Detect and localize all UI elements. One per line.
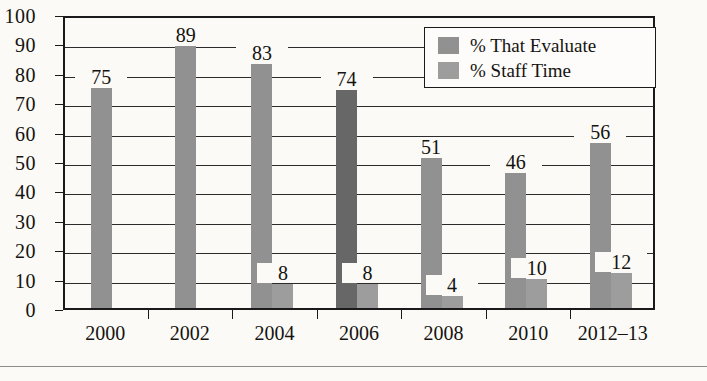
x-axis-tick-mark bbox=[148, 310, 149, 319]
y-axis-tick-mark bbox=[55, 45, 63, 46]
gridline bbox=[65, 165, 653, 166]
bar-value-label: 56 bbox=[574, 122, 626, 142]
x-axis-category-label: 2012–13 bbox=[570, 322, 655, 344]
bar-value-label: 74 bbox=[321, 69, 373, 89]
y-axis-tick-mark bbox=[55, 222, 63, 223]
y-axis-tick-label: 20 bbox=[15, 241, 36, 261]
y-axis-tick-mark bbox=[55, 192, 63, 193]
bar-value-label: 83 bbox=[236, 43, 288, 63]
bar bbox=[357, 284, 378, 308]
bar-value-label: 8 bbox=[257, 263, 309, 283]
y-axis-tick-label: 60 bbox=[15, 124, 36, 144]
y-axis-tick-mark bbox=[55, 16, 63, 17]
x-axis-category-label: 2008 bbox=[401, 322, 486, 344]
y-axis-tick-mark bbox=[55, 134, 63, 135]
x-axis-tick-mark bbox=[486, 310, 487, 319]
bar bbox=[272, 284, 293, 308]
x-axis-category-label: 2004 bbox=[232, 322, 317, 344]
footer-divider bbox=[0, 366, 707, 367]
legend-item: % That Evaluate bbox=[438, 33, 655, 58]
y-axis-tick-mark bbox=[55, 251, 63, 252]
y-axis-tick-mark bbox=[55, 163, 63, 164]
y-axis-tick-label: 90 bbox=[15, 35, 36, 55]
bar-value-label: 10 bbox=[511, 258, 563, 278]
y-axis-tick-label: 70 bbox=[15, 94, 36, 114]
y-axis-tick-label: 80 bbox=[15, 65, 36, 85]
chart-figure: 0102030405060708090100 75898387485144610… bbox=[0, 0, 707, 381]
legend-swatch bbox=[438, 37, 459, 54]
bar-value-label: 89 bbox=[160, 25, 212, 45]
bar-value-label: 12 bbox=[595, 252, 647, 272]
bar-value-label: 4 bbox=[426, 275, 478, 295]
x-axis-tick-mark bbox=[232, 310, 233, 319]
bar bbox=[526, 279, 547, 308]
y-axis-tick-label: 10 bbox=[15, 271, 36, 291]
gridline bbox=[65, 136, 653, 137]
legend-item: % Staff Time bbox=[438, 58, 655, 83]
bar bbox=[91, 88, 112, 309]
y-axis-tick-label: 40 bbox=[15, 182, 36, 202]
gridline bbox=[65, 106, 653, 107]
x-axis-category-label: 2000 bbox=[63, 322, 148, 344]
bar-value-label: 75 bbox=[75, 67, 127, 87]
bar bbox=[590, 143, 611, 308]
y-axis-tick-label: 30 bbox=[15, 212, 36, 232]
y-axis-tick-mark bbox=[55, 75, 63, 76]
bar bbox=[442, 296, 463, 308]
y-axis-tick-label: 0 bbox=[26, 300, 37, 320]
y-axis-tick-mark bbox=[55, 281, 63, 282]
x-axis-category-label: 2006 bbox=[317, 322, 402, 344]
bar-value-label: 8 bbox=[342, 263, 394, 283]
legend-swatch bbox=[438, 62, 459, 79]
y-axis-tick-label: 50 bbox=[15, 153, 36, 173]
bar-value-label: 46 bbox=[490, 152, 542, 172]
y-axis-tick-mark bbox=[55, 310, 63, 311]
legend-label: % Staff Time bbox=[470, 61, 571, 80]
legend-label: % That Evaluate bbox=[470, 36, 596, 55]
bar-value-label: 51 bbox=[405, 137, 457, 157]
gridline bbox=[65, 224, 653, 225]
x-axis-tick-mark bbox=[570, 310, 571, 319]
gridline bbox=[65, 194, 653, 195]
gridline bbox=[65, 253, 653, 254]
y-axis-tick-label: 100 bbox=[5, 6, 37, 26]
x-axis-tick-mark bbox=[401, 310, 402, 319]
x-axis-category-label: 2002 bbox=[148, 322, 233, 344]
bar bbox=[505, 173, 526, 308]
x-axis-category-label: 2010 bbox=[486, 322, 571, 344]
y-axis-tick-mark bbox=[55, 104, 63, 105]
bar bbox=[611, 273, 632, 308]
chart-legend: % That Evaluate% Staff Time bbox=[424, 27, 656, 88]
bar bbox=[175, 46, 196, 308]
x-axis-tick-mark bbox=[317, 310, 318, 319]
